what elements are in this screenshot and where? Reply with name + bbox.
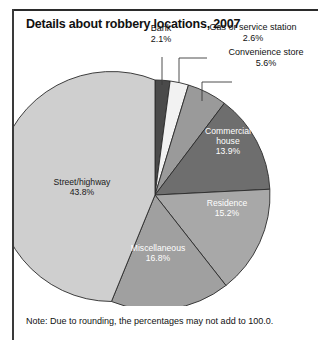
- slice-label-street-highway-value: 43.8%: [36, 187, 128, 197]
- slice-label-street-highway: Street/highway 43.8%: [36, 177, 128, 197]
- slice-label-miscellaneous-name: Miscellaneous: [116, 243, 200, 253]
- pie-chart: Bank 2.1% Gas or service station 2.6% Co…: [14, 38, 318, 306]
- slice-label-commercial-house-line2: house: [190, 136, 266, 146]
- slice-label-miscellaneous: Miscellaneous 16.8%: [116, 243, 200, 263]
- callout-convenience-store: Convenience store 5.6%: [216, 47, 316, 68]
- figure-note: Note: Due to rounding, the percentages m…: [26, 316, 273, 326]
- slice-label-street-highway-name: Street/highway: [36, 177, 128, 187]
- callout-gas-label: Gas or service station: [194, 22, 312, 33]
- callout-gas-or-service-station: Gas or service station 2.6%: [194, 22, 312, 43]
- figure-panel: Details about robbery locations, 2007: [0, 0, 318, 340]
- callout-bank-value: 2.1%: [130, 34, 192, 45]
- callout-convenience-value: 5.6%: [216, 58, 316, 69]
- pie-chart-svg: [14, 38, 318, 306]
- slice-label-residence: Residence 15.2%: [192, 198, 262, 218]
- callout-convenience-label: Convenience store: [216, 47, 316, 58]
- callout-bank-label: Bank: [130, 23, 192, 34]
- slice-label-commercial-house: Commercial house 13.9%: [190, 126, 266, 156]
- callout-bank: Bank 2.1%: [130, 23, 192, 44]
- panel-top-rule: [12, 9, 318, 11]
- slice-label-residence-value: 15.2%: [192, 208, 262, 218]
- slice-label-residence-name: Residence: [192, 198, 262, 208]
- slice-label-commercial-house-value: 13.9%: [190, 146, 266, 156]
- slice-label-commercial-house-line1: Commercial: [190, 126, 266, 136]
- callout-gas-value: 2.6%: [194, 33, 312, 44]
- slice-label-miscellaneous-value: 16.8%: [116, 253, 200, 263]
